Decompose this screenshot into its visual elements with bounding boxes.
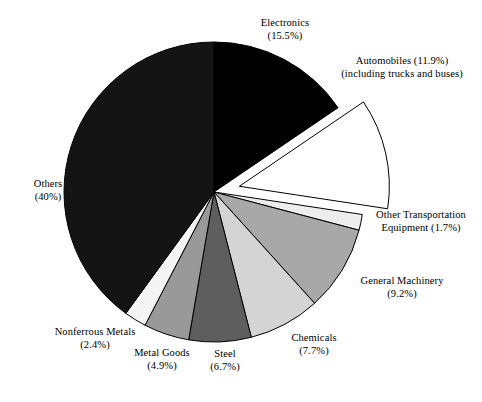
- slice-label-other-transportation-equipment-line2: Equipment (1.7%): [360, 221, 482, 234]
- slice-label-metal-goods-line2: (4.9%): [116, 359, 208, 372]
- slice-label-nonferrous-metals-line2: (2.4%): [36, 338, 154, 351]
- slice-label-electronics-line1: Electronics: [225, 16, 345, 29]
- slice-label-automobiles-line2: (including trucks and buses): [322, 67, 482, 80]
- slice-label-general-machinery-line2: (9.2%): [337, 287, 467, 300]
- slice-label-automobiles: Automobiles (11.9%) (including trucks an…: [322, 54, 482, 80]
- slice-label-general-machinery-line1: General Machinery: [337, 274, 467, 287]
- slice-label-other-transportation-equipment: Other Transportation Equipment (1.7%): [360, 208, 482, 234]
- slice-label-chemicals-line2: (7.7%): [268, 344, 360, 357]
- slice-label-others-line2: (40%): [12, 190, 84, 203]
- slice-label-automobiles-line1: Automobiles (11.9%): [322, 54, 482, 67]
- slice-label-chemicals-line1: Chemicals: [268, 331, 360, 344]
- slice-label-others: Others (40%): [12, 177, 84, 203]
- pie-chart-figure: Electronics (15.5%) Automobiles (11.9%) …: [0, 0, 482, 402]
- slice-label-general-machinery: General Machinery (9.2%): [337, 274, 467, 300]
- slice-label-electronics-line2: (15.5%): [225, 29, 345, 42]
- slice-label-nonferrous-metals-line1: Nonferrous Metals: [36, 325, 154, 338]
- slice-label-chemicals: Chemicals (7.7%): [268, 331, 360, 357]
- slice-label-nonferrous-metals: Nonferrous Metals (2.4%): [36, 325, 154, 351]
- slice-label-others-line1: Others: [12, 177, 84, 190]
- slice-label-electronics: Electronics (15.5%): [225, 16, 345, 42]
- slice-label-other-transportation-equipment-line1: Other Transportation: [360, 208, 482, 221]
